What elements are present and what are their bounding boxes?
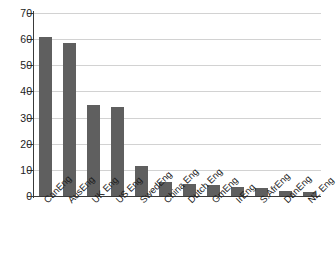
bars-layer [33, 13, 321, 196]
y-tick-label: 70 [20, 8, 32, 19]
y-tick-label: 60 [20, 34, 32, 45]
y-tick-label: 50 [20, 60, 32, 71]
y-tick-label: 30 [20, 113, 32, 124]
y-tick-label: 40 [20, 86, 32, 97]
y-tick-label: 20 [20, 139, 32, 150]
y-tick-label: 10 [20, 165, 32, 176]
x-axis-labels: CanEngAusEngUK EngUS EngSwedEngChina Eng… [33, 198, 321, 262]
bar [39, 37, 52, 196]
